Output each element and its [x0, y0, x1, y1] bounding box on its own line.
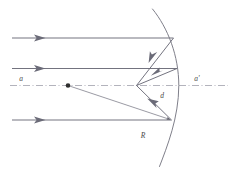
concave-mirror-arc: [153, 9, 179, 167]
concave-mirror-arc-group: [153, 9, 179, 167]
distance-label-d: d: [160, 91, 164, 100]
labels-group: a a' d R: [19, 74, 200, 140]
reflected-ray-bottom-arrowhead: [147, 99, 159, 109]
ray-diagram-figure: a a' d R: [0, 0, 234, 173]
axis-left-label: a: [19, 74, 23, 83]
reflected-ray-top: [137, 38, 174, 86]
center-of-curvature-group: [66, 83, 71, 88]
center-of-curvature-point: [66, 83, 71, 88]
ray-diagram-canvas: a a' d R: [0, 0, 234, 173]
reflected-rays-group: [137, 38, 178, 120]
radius-label-r: R: [140, 131, 146, 140]
axis-right-label: a': [194, 74, 200, 83]
